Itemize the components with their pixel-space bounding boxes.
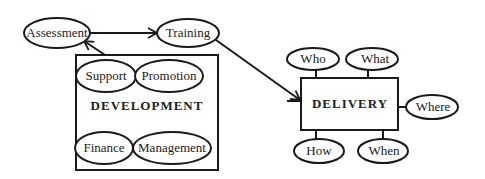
how-label: How: [306, 143, 332, 158]
training-model-diagram: Assessment Training Support Promotion DE…: [0, 0, 485, 179]
node-where: Where: [406, 95, 458, 119]
node-training: Training: [157, 19, 219, 47]
node-who: Who: [287, 48, 339, 70]
edge-training-to-delivery: [216, 40, 300, 100]
assessment-label: Assessment: [26, 25, 88, 40]
node-delivery: DELIVERY: [301, 78, 398, 130]
who-label: Who: [300, 51, 325, 66]
node-assessment: Assessment: [24, 18, 90, 48]
where-label: Where: [416, 99, 451, 114]
node-how: How: [294, 139, 344, 163]
delivery-label: DELIVERY: [312, 96, 388, 111]
promotion-label: Promotion: [142, 68, 197, 83]
edge-development-to-assessment: [84, 41, 105, 55]
node-development: Support Promotion DEVELOPMENT Finance Ma…: [75, 55, 218, 170]
support-label: Support: [85, 68, 127, 83]
node-what: What: [346, 48, 398, 70]
node-when: When: [358, 139, 408, 163]
what-label: What: [361, 51, 390, 66]
finance-label: Finance: [83, 140, 124, 155]
training-label: Training: [166, 25, 211, 40]
development-label: DEVELOPMENT: [91, 98, 204, 113]
when-label: When: [368, 143, 400, 158]
management-label: Management: [138, 140, 206, 155]
